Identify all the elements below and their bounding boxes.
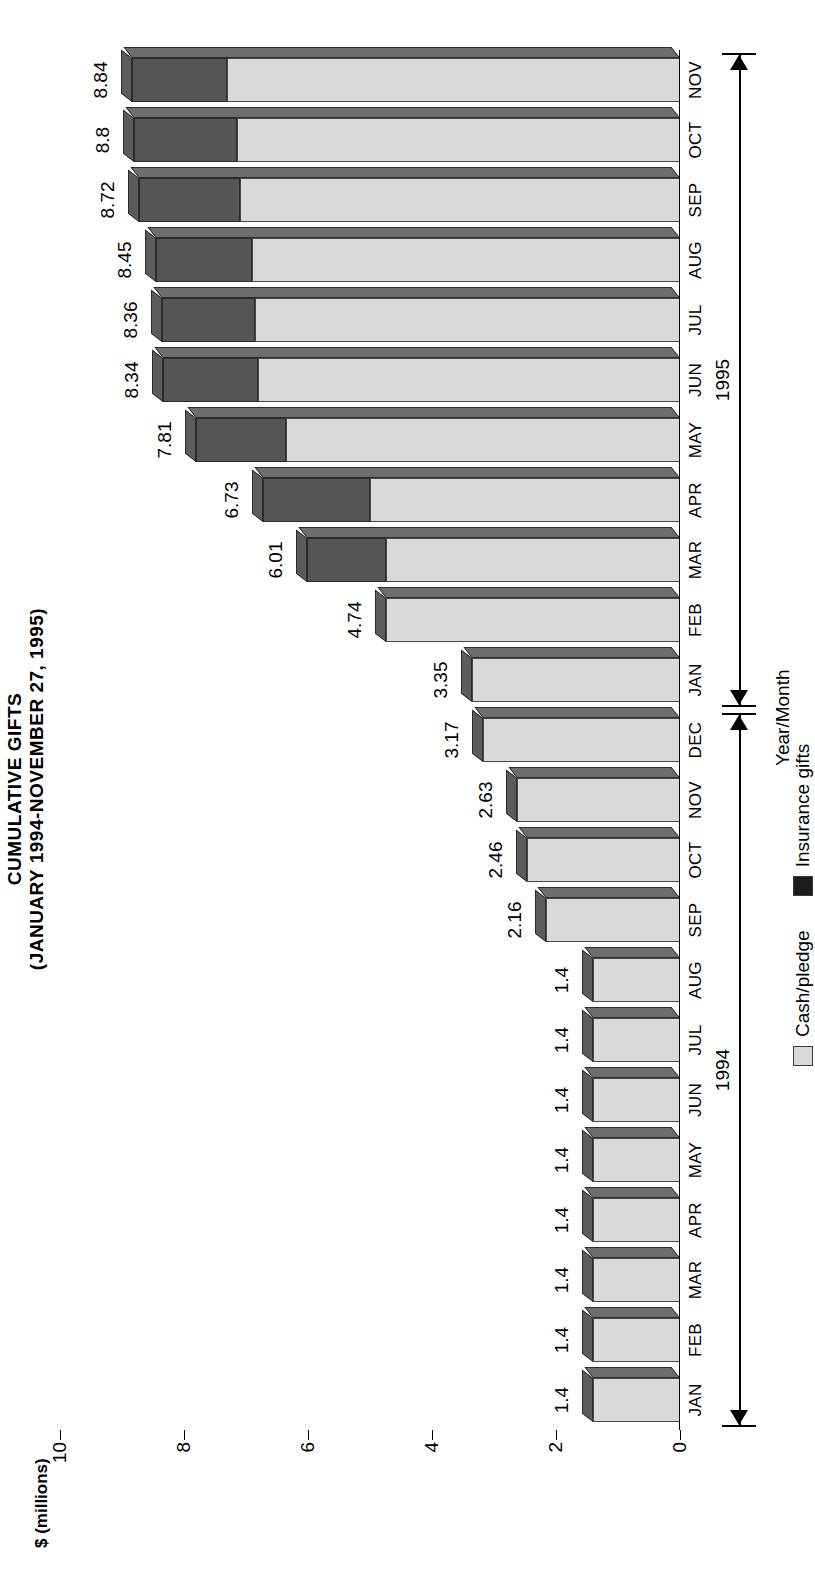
bar-segment-insurance-gifts[interactable] [307,538,385,582]
stacked-bar[interactable] [386,598,680,642]
bar-segment-insurance-gifts[interactable] [263,478,370,522]
bar-segment-cash-pledge[interactable] [593,1258,680,1302]
bar-segment-cash-pledge[interactable] [258,358,680,402]
bar-value-label: 8.84 [90,62,112,99]
bar-group: 4.74 [60,598,680,642]
bar-segment-cash-pledge[interactable] [527,838,680,882]
stacked-bar[interactable] [163,358,680,402]
bar-segment-cash-pledge[interactable] [593,1318,680,1362]
chart-title-line2: (JANUARY 1994-NOVEMBER 27, 1995) [26,0,48,1578]
bar-segment-insurance-gifts[interactable] [132,58,227,102]
bar-side-face [585,1247,680,1258]
value-tick-mark [308,1430,309,1440]
stacked-bar[interactable] [307,538,680,582]
stacked-bar[interactable] [546,898,680,942]
bar-top-face [152,349,163,402]
bar-segment-cash-pledge[interactable] [240,178,680,222]
stacked-bar[interactable] [132,58,680,102]
category-label-1994-MAY: MAY [686,1130,706,1190]
bar-segment-cash-pledge[interactable] [227,58,680,102]
value-tick-mark [556,1430,557,1440]
bar-group: 3.35 [60,658,680,702]
category-label-1994-MAR: MAR [686,1250,706,1310]
bar-value-label: 2.16 [504,902,526,939]
stacked-bar[interactable] [593,1198,680,1242]
stacked-bar[interactable] [593,1258,680,1302]
bar-value-label: 4.74 [344,602,366,639]
bar-group: 1.4 [60,1258,680,1302]
bar-segment-cash-pledge[interactable] [386,538,681,582]
stacked-bar[interactable] [593,1078,680,1122]
bar-segment-cash-pledge[interactable] [593,1378,680,1422]
stacked-bar[interactable] [593,1378,680,1422]
stacked-bar[interactable] [139,178,680,222]
bar-top-face [151,289,162,342]
bar-segment-insurance-gifts[interactable] [156,238,252,282]
bar-segment-cash-pledge[interactable] [546,898,680,942]
bar-value-label: 2.63 [475,782,497,819]
bar-segment-cash-pledge[interactable] [237,118,680,162]
bar-value-label: 8.45 [114,242,136,279]
bar-segment-cash-pledge[interactable] [386,598,680,642]
value-tick-label: 2 [545,1442,567,1476]
bar-value-label: 1.4 [551,1267,573,1293]
bar-top-face [506,769,517,822]
bar-segment-cash-pledge[interactable] [593,958,680,1002]
legend-item-label: Insurance gifts [792,744,814,868]
bar-segment-cash-pledge[interactable] [593,1138,680,1182]
bar-segment-insurance-gifts[interactable] [134,118,236,162]
bar-segment-cash-pledge[interactable] [370,478,680,522]
bar-group: 7.81 [60,418,680,462]
bar-side-face [154,347,680,358]
bar-side-face [126,107,680,118]
stacked-bar[interactable] [517,778,680,822]
stacked-bar[interactable] [196,418,680,462]
bar-value-label: 1.4 [551,1027,573,1053]
bar-value-label: 6.73 [221,482,243,519]
legend-item-label: Cash/pledge [792,930,814,1037]
bar-value-label: 1.4 [551,1087,573,1113]
category-label-1994-NOV: NOV [686,770,706,830]
bar-group: 6.73 [60,478,680,522]
value-tick-mark [432,1430,433,1440]
bar-segment-cash-pledge[interactable] [483,718,680,762]
zero-baseline [679,50,680,1430]
bar-value-label: 7.81 [154,422,176,459]
value-tick-mark [60,1430,61,1440]
category-label-1995-FEB: FEB [686,590,706,650]
stacked-bar[interactable] [527,838,680,882]
bar-segment-insurance-gifts[interactable] [139,178,239,222]
bar-segment-insurance-gifts[interactable] [196,418,287,462]
bar-segment-cash-pledge[interactable] [593,1018,680,1062]
bar-segment-cash-pledge[interactable] [252,238,680,282]
year-bracket-cap-left [722,1425,756,1427]
stacked-bar[interactable] [263,478,680,522]
value-tick-label: 4 [421,1442,443,1476]
bar-group: 2.63 [60,778,680,822]
stacked-bar[interactable] [162,298,680,342]
category-label-1994-AUG: AUG [686,950,706,1010]
stacked-bar[interactable] [483,718,680,762]
bar-segment-insurance-gifts[interactable] [162,298,256,342]
bar-group: 1.4 [60,958,680,1002]
bar-group: 1.4 [60,1078,680,1122]
bar-side-face [464,647,680,658]
bar-segment-cash-pledge[interactable] [255,298,680,342]
year-bracket-label: 1995 [712,350,734,410]
stacked-bar[interactable] [593,958,680,1002]
stacked-bar[interactable] [134,118,680,162]
bar-segment-cash-pledge[interactable] [517,778,680,822]
stacked-bar[interactable] [156,238,680,282]
bar-segment-cash-pledge[interactable] [593,1198,680,1242]
stacked-bar[interactable] [593,1138,680,1182]
bar-group: 1.4 [60,1198,680,1242]
bar-segment-cash-pledge[interactable] [286,418,680,462]
stacked-bar[interactable] [593,1318,680,1362]
bar-segment-cash-pledge[interactable] [472,658,680,702]
stacked-bar[interactable] [472,658,680,702]
bar-segment-cash-pledge[interactable] [593,1078,680,1122]
bar-group: 6.01 [60,538,680,582]
stacked-bar[interactable] [593,1018,680,1062]
bar-segment-insurance-gifts[interactable] [163,358,258,402]
bar-group: 8.8 [60,118,680,162]
